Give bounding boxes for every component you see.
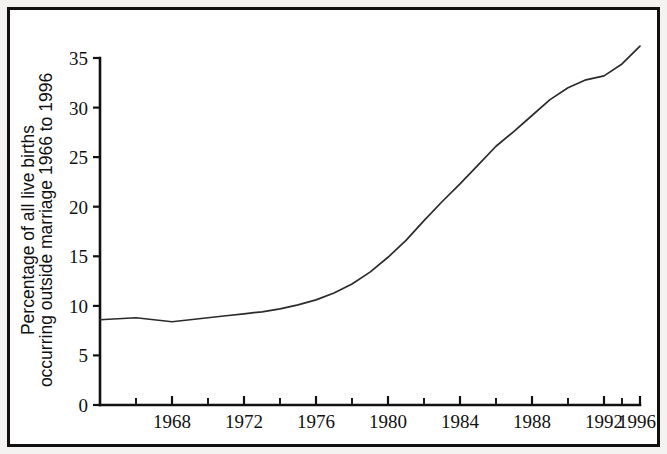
x-tick-label: 1976 [297,411,335,432]
y-tick-label: 10 [69,296,88,317]
y-axis-title-line2: occurring outside marriage 1966 to 1996 [36,73,56,387]
y-tick-label: 25 [69,147,88,168]
x-tick-label: 1988 [513,411,551,432]
y-axis-tick-labels: 0 5 10 15 20 25 30 35 [69,48,88,416]
y-tick-label: 15 [69,246,88,267]
y-tick-label: 35 [69,48,88,69]
y-tick-label: 20 [69,197,88,218]
x-tick-label: 1968 [153,411,191,432]
y-tick-label: 0 [79,395,89,416]
x-tick-label: 1972 [225,411,263,432]
data-series-line [100,46,640,322]
y-tick-label: 30 [69,98,88,119]
x-axis-tick-labels: 1968 1972 1976 1980 1984 1988 1992 1996 [153,411,656,432]
x-tick-label: 1980 [369,411,407,432]
x-axis-ticks [136,396,640,405]
line-chart: Percentage of all live births occurring … [0,0,667,454]
figure-container: Percentage of all live births occurring … [0,0,667,454]
y-tick-label: 5 [79,345,89,366]
x-tick-label: 1996 [618,411,656,432]
y-axis-title-line1: Percentage of all live births [18,125,38,335]
x-tick-label: 1984 [441,411,480,432]
